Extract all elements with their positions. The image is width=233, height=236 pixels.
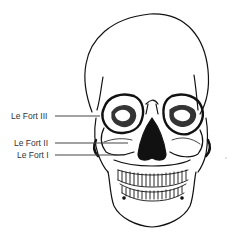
cranium-outline (85, 14, 209, 114)
upper-teeth (118, 170, 188, 187)
label-le-fort-ii: Le Fort II (14, 138, 48, 148)
label-le-fort-iii: Le Fort III (11, 111, 47, 121)
nasal-cavity (138, 118, 166, 160)
label-le-fort-i: Le Fort I (17, 150, 49, 160)
